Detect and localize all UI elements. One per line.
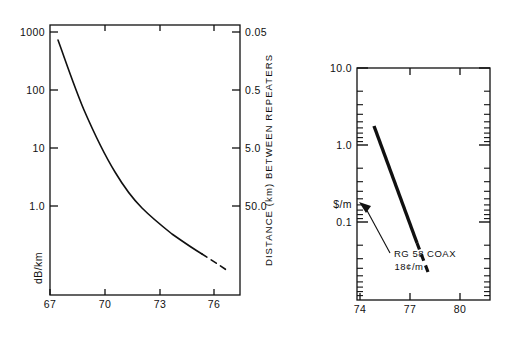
left-xtick-label-70: 70 — [99, 298, 111, 310]
left-y-axis-title: dB/km — [32, 252, 44, 284]
coax-callout-line2: 18¢/m — [395, 261, 424, 272]
left-y-ticks — [50, 32, 58, 206]
right-ytick-label-01: 0.1 — [336, 216, 352, 228]
right-plot-frame — [357, 68, 490, 300]
coax-cost-line-solid — [374, 126, 417, 243]
left-panel-right-y-ticks — [232, 32, 240, 206]
two-panel-log-figure: 1000 100 10 1.0 0.05 0.5 5.0 50.0 67 70 … — [0, 0, 510, 339]
right-panel: 10.0 1.0 0.1 74 77 80 $/m RG 58 COAX 18¢… — [330, 62, 490, 315]
left-plot-frame — [50, 25, 240, 295]
left-bottom-ticks — [50, 289, 214, 295]
dollar-per-meter-label: $/m — [333, 198, 352, 210]
right-xtick-label-74: 74 — [354, 303, 366, 315]
right-ytick-label-1: 1.0 — [336, 139, 352, 151]
figure-canvas: 1000 100 10 1.0 0.05 0.5 5.0 50.0 67 70 … — [0, 0, 510, 339]
left-ytick-label-1000: 1000 — [20, 26, 45, 38]
right-y-axis-title: DISTANCE (km) BETWEEN REPEATERS — [263, 54, 274, 266]
right-y-minor-ticks-mirror — [484, 91, 490, 295]
right-xtick-label-80: 80 — [454, 303, 466, 315]
coax-callout-arrowhead-icon — [359, 202, 371, 213]
left-xtick-label-73: 73 — [154, 298, 166, 310]
attenuation-curve-dashed — [202, 254, 228, 271]
right-ytick-label-10: 10.0 — [330, 62, 352, 74]
left-ytick-label-1: 1.0 — [29, 200, 45, 212]
right-y-minor-ticks — [357, 91, 363, 295]
left-ytick-label-100: 100 — [26, 84, 45, 96]
right-ytick-label-50: 5.0 — [245, 142, 261, 154]
left-xtick-label-67: 67 — [44, 298, 56, 310]
right-xtick-label-77: 77 — [404, 303, 416, 315]
left-ytick-label-10: 10 — [33, 142, 45, 154]
right-ytick-label-05: 0.5 — [245, 84, 261, 96]
left-top-ticks — [105, 25, 214, 31]
coax-callout-line1: RG 58 COAX — [394, 248, 456, 259]
left-xtick-label-76: 76 — [208, 298, 220, 310]
right-ytick-label-005: 0.05 — [245, 26, 267, 38]
coax-callout-leader-line — [364, 205, 390, 253]
attenuation-curve-solid — [58, 40, 202, 254]
left-panel: 1000 100 10 1.0 0.05 0.5 5.0 50.0 67 70 … — [20, 25, 274, 310]
